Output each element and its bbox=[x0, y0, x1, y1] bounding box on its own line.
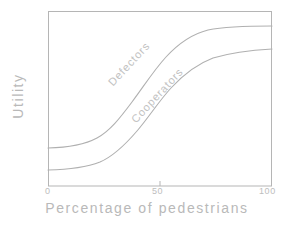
x-tick-label-0: 0 bbox=[45, 186, 51, 196]
x-tick-label-50: 50 bbox=[152, 186, 163, 196]
y-axis-title: Utility bbox=[10, 66, 26, 126]
chart-figure: 0 50 100 Defectors Cooperators Percentag… bbox=[0, 0, 294, 237]
x-axis-title: Percentage of pedestrians bbox=[0, 200, 294, 216]
curve-cooperators bbox=[48, 49, 272, 170]
x-tick-label-100: 100 bbox=[259, 186, 276, 196]
